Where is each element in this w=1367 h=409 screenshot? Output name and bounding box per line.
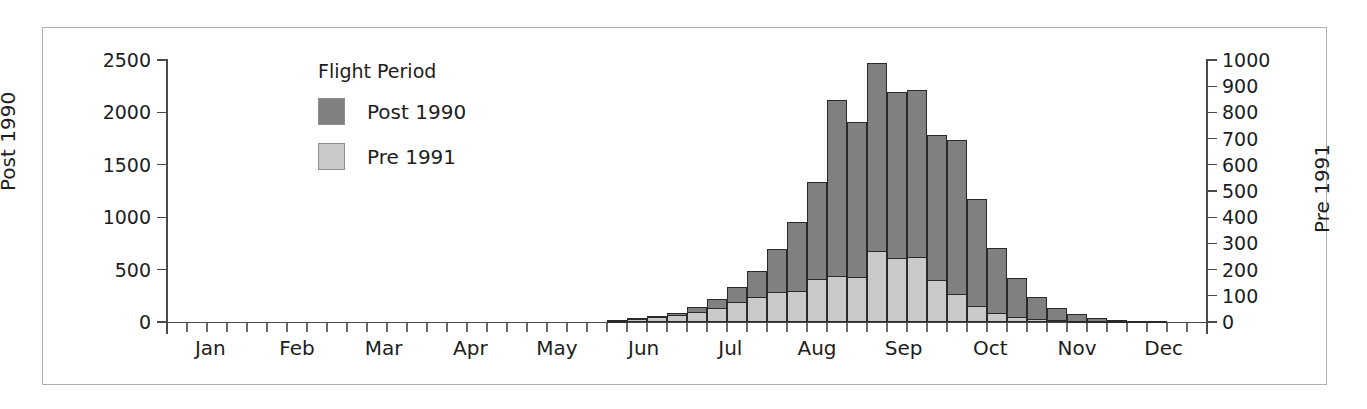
x-tick-mark xyxy=(1006,323,1007,332)
right-tick-mark xyxy=(1207,321,1217,322)
bar-post-1990 xyxy=(1127,321,1147,323)
x-tick-mark xyxy=(186,323,187,332)
x-tick-mark xyxy=(1046,323,1047,332)
bar-pre-1991 xyxy=(747,297,767,322)
legend-item-post-1990: Post 1990 xyxy=(318,98,466,125)
x-axis-month-label: Jun xyxy=(628,336,659,360)
bar-pre-1991 xyxy=(887,258,907,322)
x-tick-mark xyxy=(886,323,887,332)
right-tick-label: 0 xyxy=(1222,311,1234,333)
bar-pre-1991 xyxy=(907,257,927,323)
bar-pre-1991 xyxy=(927,280,947,322)
x-tick-mark xyxy=(1066,323,1067,332)
right-tick-mark xyxy=(1207,190,1217,191)
right-tick-label: 800 xyxy=(1222,101,1258,123)
left-tick-label: 500 xyxy=(115,259,151,281)
right-tick-label: 200 xyxy=(1222,259,1258,281)
bar-pre-1991 xyxy=(827,276,847,322)
x-tick-mark xyxy=(246,323,247,332)
x-tick-mark xyxy=(826,323,827,332)
legend-swatch-pre-1991 xyxy=(318,143,345,170)
right-tick-label: 300 xyxy=(1222,232,1258,254)
x-tick-mark xyxy=(326,323,327,332)
right-tick-label: 900 xyxy=(1222,75,1258,97)
x-tick-mark xyxy=(486,323,487,332)
left-tick-mark xyxy=(157,269,167,270)
x-tick-mark xyxy=(586,323,587,332)
right-tick-label: 600 xyxy=(1222,154,1258,176)
x-tick-mark xyxy=(546,323,547,332)
x-tick-mark xyxy=(226,323,227,332)
x-axis-month-label: Jan xyxy=(195,336,226,360)
bar-post-1990 xyxy=(1147,321,1167,323)
bar-pre-1991 xyxy=(767,292,787,322)
x-axis-month-label: Jul xyxy=(718,336,742,360)
bar-post-1990 xyxy=(987,248,1007,322)
left-tick-label: 0 xyxy=(139,311,151,333)
x-tick-mark xyxy=(286,323,287,332)
right-tick-label: 500 xyxy=(1222,180,1258,202)
legend-title: Flight Period xyxy=(318,60,466,82)
x-axis-month-label: Sep xyxy=(885,336,923,360)
left-axis-line xyxy=(166,59,168,323)
legend-label-post-1990: Post 1990 xyxy=(367,100,466,124)
x-tick-mark xyxy=(646,323,647,332)
x-tick-mark xyxy=(986,323,987,332)
bar-pre-1991 xyxy=(847,277,867,322)
right-tick-mark xyxy=(1207,138,1217,139)
x-tick-mark xyxy=(1126,323,1127,332)
legend-item-pre-1991: Pre 1991 xyxy=(318,143,466,170)
right-tick-label: 400 xyxy=(1222,206,1258,228)
legend-swatch-post-1990 xyxy=(318,98,345,125)
x-tick-mark xyxy=(1146,323,1147,332)
x-tick-mark xyxy=(806,323,807,332)
left-tick-mark xyxy=(157,164,167,165)
bar-pre-1991 xyxy=(807,279,827,322)
x-axis-month-label: Mar xyxy=(365,336,403,360)
left-tick-mark xyxy=(157,59,167,60)
x-tick-mark xyxy=(686,323,687,332)
bar-pre-1991 xyxy=(967,306,987,322)
right-tick-mark xyxy=(1207,243,1217,244)
x-axis-month-label: Apr xyxy=(453,336,488,360)
bar-pre-1991 xyxy=(627,319,647,322)
x-tick-mark xyxy=(266,323,267,332)
chart-figure: Post 1990 Pre 1991 05001000150020002500 … xyxy=(0,0,1367,409)
bar-pre-1991 xyxy=(667,315,687,322)
bar-post-1990 xyxy=(967,199,987,322)
x-tick-mark xyxy=(866,323,867,332)
x-axis-month-label: Feb xyxy=(279,336,314,360)
left-axis-title: Post 1990 xyxy=(0,92,20,191)
x-tick-mark xyxy=(1186,323,1187,332)
x-tick-mark xyxy=(846,323,847,332)
x-tick-mark xyxy=(1106,323,1107,332)
x-axis-month-label: May xyxy=(536,336,577,360)
x-axis-month-label: Dec xyxy=(1144,336,1183,360)
x-tick-mark xyxy=(726,323,727,332)
bar-pre-1991 xyxy=(867,251,887,322)
x-axis-month-label: Nov xyxy=(1057,336,1096,360)
bar-pre-1991 xyxy=(1007,317,1027,322)
x-tick-mark xyxy=(506,323,507,332)
right-tick-mark xyxy=(1207,269,1217,270)
x-tick-mark xyxy=(446,323,447,332)
x-axis-month-label: Aug xyxy=(797,336,836,360)
legend-label-pre-1991: Pre 1991 xyxy=(367,145,456,169)
x-tick-mark xyxy=(386,323,387,332)
left-tick-label: 2000 xyxy=(103,101,151,123)
right-tick-mark xyxy=(1207,112,1217,113)
x-tick-mark xyxy=(1026,323,1027,332)
bar-pre-1991 xyxy=(1107,321,1127,323)
bar-pre-1991 xyxy=(607,321,627,323)
x-axis-month-label: Oct xyxy=(973,336,1008,360)
right-tick-mark xyxy=(1207,217,1217,218)
x-tick-mark xyxy=(666,323,667,332)
x-tick-mark xyxy=(766,323,767,332)
x-tick-mark xyxy=(606,323,607,332)
left-tick-mark xyxy=(157,112,167,113)
left-tick-label: 1500 xyxy=(103,154,151,176)
x-tick-mark xyxy=(626,323,627,332)
x-tick-mark xyxy=(1166,323,1167,332)
legend: Flight Period Post 1990 Pre 1991 xyxy=(318,60,466,188)
bar-pre-1991 xyxy=(1047,320,1067,322)
